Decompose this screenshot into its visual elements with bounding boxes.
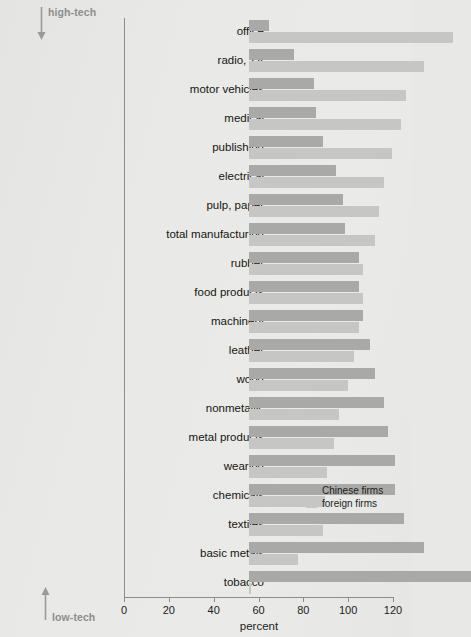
category-label: total manufacturing [94, 228, 264, 240]
bar-chinese-firms [249, 49, 294, 60]
category-label: metal products [94, 431, 264, 443]
bar-row: textiles [124, 511, 393, 540]
bar-row: motor vehicles [124, 76, 393, 105]
bar-chinese-firms [249, 281, 359, 292]
bar-row: rubber [124, 250, 393, 279]
bar-chinese-firms [249, 571, 471, 582]
bar-foreign-firms [249, 322, 359, 333]
x-tick-label: 80 [297, 604, 309, 616]
category-label: basic metals [94, 547, 264, 559]
bar-chinese-firms [249, 223, 345, 234]
bar-row: office [124, 18, 393, 47]
bar-row: basic metals [124, 540, 393, 569]
x-tick-mark [393, 598, 394, 602]
legend-swatch-foreign-firms [306, 500, 317, 508]
category-label: office [94, 25, 264, 37]
category-label: pulp, paper [94, 199, 264, 211]
category-label: textiles [94, 518, 264, 530]
x-tick-mark [303, 598, 304, 602]
x-axis-title: percent [124, 620, 394, 632]
bar-row: publishing [124, 134, 393, 163]
bar-chinese-firms [249, 426, 388, 437]
bar-chinese-firms [249, 136, 323, 147]
category-label: radio, TV [94, 54, 264, 66]
category-label: rubber [94, 257, 264, 269]
bar-row: machinery [124, 308, 393, 337]
bar-chinese-firms [249, 339, 370, 350]
category-label: leather [94, 344, 264, 356]
category-label: tobacco [94, 576, 264, 588]
bar-foreign-firms [249, 583, 251, 594]
bar-foreign-firms [249, 177, 384, 188]
x-tick-mark [169, 598, 170, 602]
x-tick-mark [214, 598, 215, 602]
x-tick-label: 40 [208, 604, 220, 616]
bar-chinese-firms [249, 542, 424, 553]
bar-chinese-firms [249, 78, 314, 89]
bar-chinese-firms [249, 165, 336, 176]
legend-label-foreign-firms: foreign firms [322, 498, 377, 509]
bar-row: wearing [124, 453, 393, 482]
bar-chinese-firms [249, 368, 375, 379]
category-label: nonmetallic [94, 402, 264, 414]
legend-swatch-chinese-firms [306, 487, 317, 495]
bar-row: leather [124, 337, 393, 366]
bar-foreign-firms [249, 554, 298, 565]
high-tech-label: high-tech [48, 6, 96, 18]
legend-item-chinese-firms: Chinese firms [306, 484, 383, 497]
bar-chinese-firms [249, 397, 384, 408]
low-tech-label: low-tech [52, 611, 95, 623]
bar-row: food products [124, 279, 393, 308]
x-tick-label: 60 [252, 604, 264, 616]
bar-foreign-firms [249, 264, 363, 275]
category-label: medical [94, 112, 264, 124]
x-tick-label: 100 [339, 604, 357, 616]
bar-foreign-firms [249, 61, 424, 72]
bar-chinese-firms [249, 310, 363, 321]
bar-row: total manufacturing [124, 221, 393, 250]
x-tick-mark [124, 598, 125, 602]
bar-row: tobacco [124, 569, 393, 598]
x-tick-label: 0 [121, 604, 127, 616]
bar-foreign-firms [249, 119, 401, 130]
category-label: publishing [94, 141, 264, 153]
bar-row: radio, TV [124, 47, 393, 76]
x-tick-mark [259, 598, 260, 602]
bar-chinese-firms [249, 252, 359, 263]
bar-row: wood [124, 366, 393, 395]
bar-foreign-firms [249, 467, 327, 478]
bar-row: metal products [124, 424, 393, 453]
bar-foreign-firms [249, 525, 323, 536]
bar-row: electrical [124, 163, 393, 192]
bar-foreign-firms [249, 235, 375, 246]
legend-label-chinese-firms: Chinese firms [322, 485, 383, 496]
bar-chinese-firms [249, 107, 316, 118]
bar-row: nonmetallic [124, 395, 393, 424]
category-label: machinery [94, 315, 264, 327]
bar-foreign-firms [249, 409, 339, 420]
category-label: food products [94, 286, 264, 298]
legend: Chinese firms foreign firms [306, 484, 383, 510]
arrow-up-icon [40, 586, 51, 620]
plot-area: officeradio, TVmotor vehiclesmedicalpubl… [124, 18, 393, 598]
bar-chinese-firms [249, 455, 395, 466]
bar-chinese-firms [249, 20, 269, 31]
bar-foreign-firms [249, 206, 379, 217]
bar-foreign-firms [249, 438, 334, 449]
x-tick-label: 120 [384, 604, 402, 616]
legend-item-foreign-firms: foreign firms [306, 497, 383, 510]
bar-chinese-firms [249, 513, 404, 524]
x-tick-label: 20 [163, 604, 175, 616]
bar-foreign-firms [249, 293, 363, 304]
bar-chinese-firms [249, 194, 343, 205]
arrow-down-icon [36, 7, 47, 41]
bar-foreign-firms [249, 32, 453, 43]
bar-foreign-firms [249, 380, 348, 391]
category-label: chemicals [94, 489, 264, 501]
category-label: motor vehicles [94, 83, 264, 95]
bar-row: pulp, paper [124, 192, 393, 221]
bar-foreign-firms [249, 148, 392, 159]
x-tick-mark [348, 598, 349, 602]
bar-foreign-firms [249, 351, 354, 362]
